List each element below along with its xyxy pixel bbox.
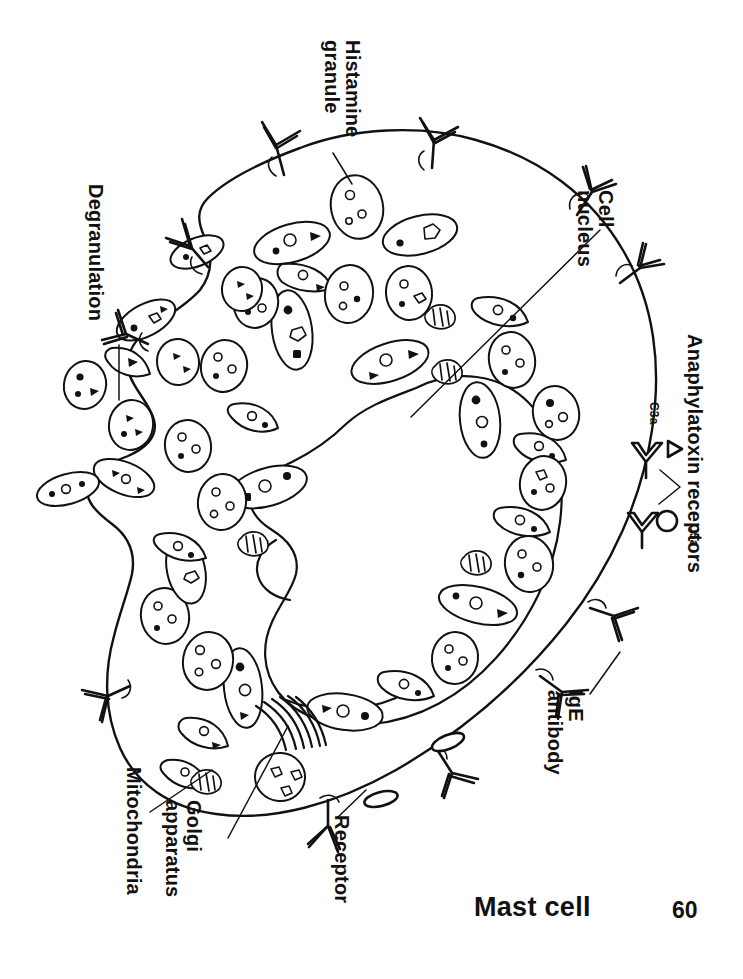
released-granule [105,397,157,454]
label-c5a: C5a [688,524,700,547]
mitochondrion [461,551,491,575]
mitochondrion [425,305,455,329]
ige-antibody [432,747,478,798]
granule [228,403,278,431]
released-granule [59,357,110,413]
label-receptor: Receptor [331,815,352,903]
granule [429,630,480,687]
granule [154,533,206,561]
label-c3a: C3a [648,402,660,425]
c5a-receptor [628,511,677,548]
granule [196,336,252,396]
granule [378,671,434,700]
granule [494,507,550,536]
figure-title: Mast cell [474,892,591,923]
released-granule [154,336,202,387]
granule [456,380,504,460]
granule [472,297,528,326]
granule [484,328,539,391]
granule [179,718,228,749]
label-golgi-apparatus: Golgi apparatus [162,800,204,897]
leader-receptor [337,790,366,818]
leader-ige-antibody [590,652,620,694]
label-mitochondria: Mitochondria [123,767,144,895]
granule [501,533,556,595]
granule [346,332,434,393]
mast-cell-figure: Histamine granule Cell nucleus Anaphylat… [0,0,743,979]
granule [379,207,462,262]
granule [435,578,521,632]
granule [161,416,215,475]
released-granule [105,348,150,377]
mitochondrion [238,532,268,556]
granule [321,262,377,326]
released-granule [166,229,228,276]
leader-anaphylatoxin [659,470,680,504]
label-degranulation: Degranulation [85,184,106,321]
granule [305,689,385,735]
released-granule [88,451,159,505]
label-histamine-granule: Histamine granule [321,40,363,137]
page-number: 60 [672,897,698,924]
ige-antibody [419,118,458,170]
ige-antibody [588,600,638,641]
label-ige-antibody: IgE antibody [544,690,586,775]
granule [278,264,333,292]
granule [325,170,389,243]
c3a-receptor [632,441,682,478]
label-cell-nucleus: Cell nucleus [574,190,616,267]
cell-drawing [0,0,743,979]
